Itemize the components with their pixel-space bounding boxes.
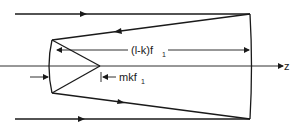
incoming-ray-bottom	[15, 116, 250, 122]
dimension-long: (l-k)f 1	[57, 44, 249, 58]
dimension-short-label: mkf	[119, 71, 138, 83]
secondary-mirror	[49, 40, 52, 93]
dimension-long-subscript: 1	[162, 51, 166, 58]
reflected-ray-top	[52, 14, 250, 40]
axis-label-z: z	[284, 60, 290, 72]
primary-mirror	[250, 14, 252, 119]
incoming-ray-top	[15, 11, 250, 17]
focus-rays	[52, 40, 100, 93]
reflected-ray-bottom	[52, 93, 250, 119]
dimension-short-subscript: 1	[141, 78, 145, 85]
ray-diagram: z (l-k)f 1 mkf 1	[0, 0, 292, 130]
dimension-long-label: (l-k)f	[131, 44, 154, 56]
